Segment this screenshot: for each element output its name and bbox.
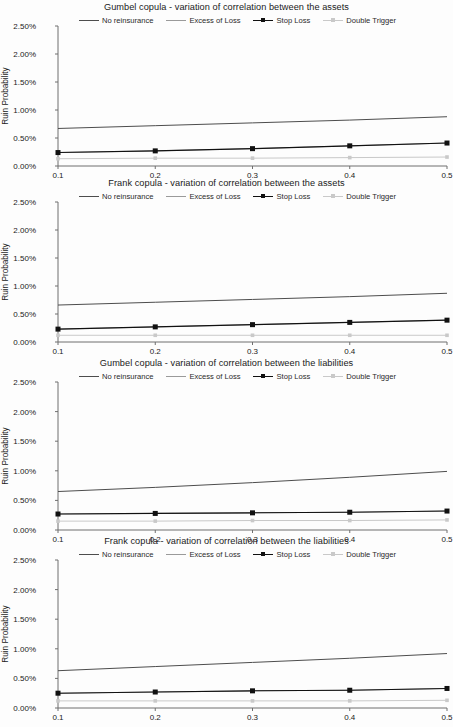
series-line-no-reinsurance	[58, 293, 447, 305]
data-point-double-trigger	[445, 155, 449, 159]
data-point-double-trigger	[348, 699, 352, 703]
series-line-no-reinsurance	[58, 471, 447, 491]
legend-item-excess-of-loss[interactable]: Excess of Loss	[166, 372, 240, 381]
data-point-stop-loss	[445, 686, 450, 691]
legend-swatch-stop-loss-icon	[253, 551, 273, 558]
x-tick-label: 0.4	[344, 713, 355, 722]
plot-area: Ruin Probability0.00%0.50%1.00%1.50%2.00…	[0, 382, 453, 546]
data-point-double-trigger	[251, 156, 255, 160]
data-point-double-trigger	[445, 518, 449, 522]
legend-label: Excess of Loss	[189, 550, 240, 559]
legend-item-excess-of-loss[interactable]: Excess of Loss	[166, 550, 240, 559]
legend-swatch-no-reinsurance-icon	[79, 193, 99, 200]
data-point-stop-loss	[347, 143, 352, 148]
legend-item-stop-loss[interactable]: Stop Loss	[253, 192, 310, 201]
legend-label: Excess of Loss	[189, 192, 240, 201]
legend-swatch-excess-of-loss-icon	[166, 551, 186, 558]
legend-item-stop-loss[interactable]: Stop Loss	[253, 16, 310, 25]
legend-swatch-double-trigger-icon	[323, 17, 343, 24]
chart-legend: No reinsuranceExcess of LossStop LossDou…	[0, 370, 453, 382]
data-point-stop-loss	[153, 511, 158, 516]
data-point-stop-loss	[56, 512, 61, 517]
plot-area: Ruin Probability0.00%0.50%1.00%1.50%2.00…	[0, 560, 453, 724]
legend-item-no-reinsurance[interactable]: No reinsurance	[79, 550, 154, 559]
chart-title: Frank copula - variation of correlation …	[0, 178, 453, 189]
data-point-double-trigger	[153, 519, 157, 523]
data-point-stop-loss	[347, 510, 352, 515]
legend-item-stop-loss[interactable]: Stop Loss	[253, 372, 310, 381]
data-point-stop-loss	[153, 324, 158, 329]
data-point-stop-loss	[347, 688, 352, 693]
data-point-stop-loss	[445, 141, 450, 146]
data-point-double-trigger	[251, 519, 255, 523]
legend-item-excess-of-loss[interactable]: Excess of Loss	[166, 192, 240, 201]
legend-item-double-trigger[interactable]: Double Trigger	[323, 192, 396, 201]
legend-item-double-trigger[interactable]: Double Trigger	[323, 550, 396, 559]
legend-item-double-trigger[interactable]: Double Trigger	[323, 16, 396, 25]
series-line-no-reinsurance	[58, 117, 447, 129]
data-point-double-trigger	[445, 333, 449, 337]
data-point-double-trigger	[56, 519, 60, 523]
legend-swatch-no-reinsurance-icon	[79, 551, 99, 558]
legend-swatch-no-reinsurance-icon	[79, 17, 99, 24]
legend-item-no-reinsurance[interactable]: No reinsurance	[79, 192, 154, 201]
legend-swatch-stop-loss-icon	[253, 373, 273, 380]
legend-label: Excess of Loss	[189, 16, 240, 25]
legend-swatch-no-reinsurance-icon	[79, 373, 99, 380]
chart-legend: No reinsuranceExcess of LossStop LossDou…	[0, 548, 453, 560]
legend-label: Stop Loss	[276, 16, 310, 25]
series-line-no-reinsurance	[58, 654, 447, 671]
plot-area: Ruin Probability0.00%0.50%1.00%1.50%2.00…	[0, 26, 453, 182]
data-point-stop-loss	[250, 688, 255, 693]
legend-swatch-stop-loss-icon	[253, 193, 273, 200]
legend-item-no-reinsurance[interactable]: No reinsurance	[79, 372, 154, 381]
legend-label: Double Trigger	[346, 192, 396, 201]
data-point-double-trigger	[348, 333, 352, 337]
legend-swatch-stop-loss-icon	[253, 17, 273, 24]
data-point-stop-loss	[56, 327, 61, 332]
legend-item-no-reinsurance[interactable]: No reinsurance	[79, 16, 154, 25]
legend-label: Stop Loss	[276, 192, 310, 201]
x-tick-label: 0.2	[150, 347, 161, 356]
figure-page: Gumbel copula - variation of correlation…	[0, 0, 453, 727]
data-point-stop-loss	[347, 320, 352, 325]
chart-1: Gumbel copula - variation of correlation…	[0, 2, 453, 182]
legend-swatch-double-trigger-icon	[323, 193, 343, 200]
chart-legend: No reinsuranceExcess of LossStop LossDou…	[0, 190, 453, 202]
x-tick-label: 0.3	[247, 713, 258, 722]
legend-label: Double Trigger	[346, 372, 396, 381]
data-point-stop-loss	[250, 146, 255, 151]
data-point-stop-loss	[445, 318, 450, 323]
data-point-stop-loss	[56, 691, 61, 696]
data-point-double-trigger	[251, 699, 255, 703]
legend-item-excess-of-loss[interactable]: Excess of Loss	[166, 16, 240, 25]
legend-label: No reinsurance	[102, 192, 154, 201]
data-point-stop-loss	[250, 510, 255, 515]
data-point-double-trigger	[56, 333, 60, 337]
plot-area: Ruin Probability0.00%0.50%1.00%1.50%2.00…	[0, 202, 453, 358]
legend-swatch-excess-of-loss-icon	[166, 193, 186, 200]
data-point-double-trigger	[153, 333, 157, 337]
plot-svg	[0, 560, 447, 714]
plot-svg	[0, 202, 447, 348]
legend-item-double-trigger[interactable]: Double Trigger	[323, 372, 396, 381]
data-point-double-trigger	[153, 699, 157, 703]
legend-label: No reinsurance	[102, 550, 154, 559]
legend-label: Double Trigger	[346, 16, 396, 25]
chart-legend: No reinsuranceExcess of LossStop LossDou…	[0, 14, 453, 26]
legend-item-stop-loss[interactable]: Stop Loss	[253, 550, 310, 559]
plot-svg	[0, 382, 447, 536]
x-tick-label: 0.1	[52, 713, 63, 722]
chart-title: Frank copula - variation of correlation …	[0, 536, 453, 547]
data-point-stop-loss	[445, 509, 450, 514]
data-point-stop-loss	[153, 148, 158, 153]
data-point-stop-loss	[250, 322, 255, 327]
data-point-double-trigger	[251, 333, 255, 337]
chart-3: Gumbel copula - variation of correlation…	[0, 358, 453, 546]
legend-label: Stop Loss	[276, 550, 310, 559]
data-point-double-trigger	[445, 699, 449, 703]
data-point-stop-loss	[56, 150, 61, 155]
legend-label: No reinsurance	[102, 372, 154, 381]
x-tick-label: 0.4	[344, 347, 355, 356]
legend-label: Excess of Loss	[189, 372, 240, 381]
